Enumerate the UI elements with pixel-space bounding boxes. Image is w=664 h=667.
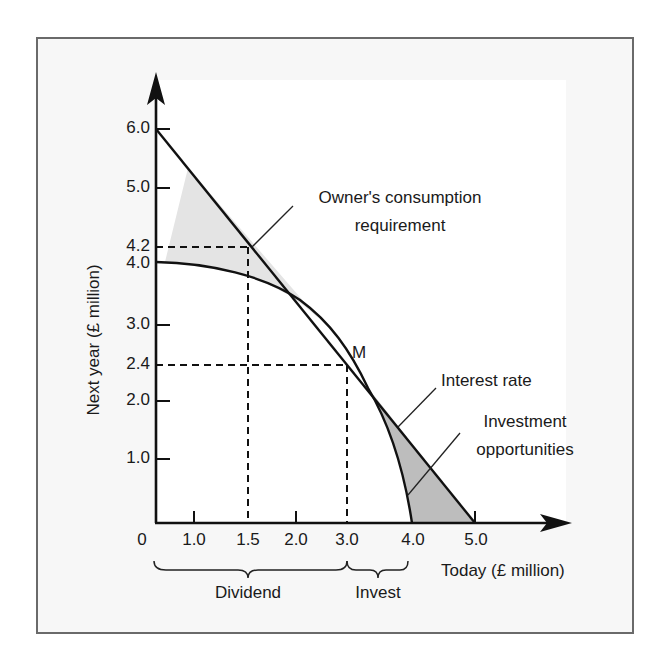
invest-label: Invest (338, 583, 418, 603)
owner-consumption-label-line1: Owner's consumption (280, 188, 520, 208)
investment-opportunities-label-line2: opportunities (455, 440, 595, 460)
x-tick-5: 5.0 (451, 530, 501, 550)
y-tick-3: 3.0 (100, 314, 150, 334)
x-tick-1: 1.0 (169, 530, 219, 550)
x-tick-2: 2.0 (271, 530, 321, 550)
point-m-label: M (352, 343, 366, 363)
x-tick-0: 0 (117, 530, 167, 550)
investment-opportunities-label-line1: Investment (455, 412, 595, 432)
y-tick-6: 6.0 (100, 118, 150, 138)
x-tick-1-5: 1.5 (223, 530, 273, 550)
owner-consumption-label-line2: requirement (280, 216, 520, 236)
y-tick-5: 5.0 (100, 177, 150, 197)
y-tick-2-4: 2.4 (100, 354, 150, 374)
x-tick-3: 3.0 (322, 530, 372, 550)
y-tick-4: 4.0 (100, 253, 150, 273)
y-tick-2: 2.0 (100, 390, 150, 410)
dividend-label: Dividend (198, 583, 298, 603)
x-tick-4: 4.0 (388, 530, 438, 550)
y-axis-title: Next year (£ million) (84, 264, 104, 415)
x-axis-title: Today (£ million) (441, 561, 565, 581)
interest-rate-label: Interest rate (441, 371, 532, 391)
dividend-brace (154, 561, 347, 578)
invest-brace (347, 561, 408, 578)
y-tick-1: 1.0 (100, 448, 150, 468)
